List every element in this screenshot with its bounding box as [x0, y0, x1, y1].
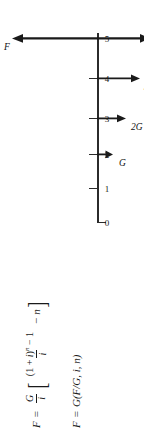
formula1-main-denominator: i: [36, 350, 48, 359]
cash-flow-arrow-3G: [97, 65, 143, 91]
formula-rotation-wrapper: F = G i [ (1 + i)n − 1 i − n ]: [12, 260, 132, 428]
formula2-equals: =: [70, 411, 82, 417]
formula1-num-close: ): [24, 351, 35, 354]
cash-flow-figure: 0 1 2 3 4 5 G 2G: [0, 0, 144, 434]
diagram-rotation-wrapper: 0 1 2 3 4 5 G 2G: [2, 0, 142, 231]
cash-flow-arrow-2G: [97, 105, 129, 131]
formula1-num-open: (1 +: [24, 357, 35, 376]
diagram-canvas: 0 1 2 3 4 5 G 2G: [2, 0, 142, 231]
formula1-main-fraction: (1 + i)n − 1 i: [24, 329, 48, 379]
formula1-num-exponent: n: [23, 348, 31, 352]
formula1-lhs: F: [30, 421, 42, 428]
formula2-lhs: F: [70, 421, 82, 428]
axis-tick-1: [89, 188, 98, 189]
cash-flow-label-F: F: [4, 42, 10, 52]
cash-flow-label-2G: 2G: [131, 122, 143, 132]
formula1-coef-numerator: G: [25, 392, 36, 405]
formula1-num-i: i: [24, 354, 35, 357]
formula1-coef-denominator: i: [36, 394, 48, 403]
formula-block: F = G i [ (1 + i)n − 1 i − n ]: [0, 255, 144, 434]
formula-factor-notation: F = G(F/G, i, n): [70, 355, 82, 429]
formula1-num-tail: − 1: [24, 332, 35, 348]
formula1-minus: −: [30, 318, 42, 324]
formula-future-worth-gradient: F = G i [ (1 + i)n − 1 i − n ]: [24, 301, 48, 429]
cash-flow-arrow-4G: [97, 25, 144, 51]
formula1-equals: =: [30, 411, 42, 417]
formula-stack: F = G i [ (1 + i)n − 1 i − n ]: [12, 260, 132, 428]
cash-flow-label-G: G: [119, 158, 126, 168]
formula1-coefficient-fraction: G i: [25, 392, 48, 405]
formula2-rhs: G(F/G, i, n): [70, 355, 82, 408]
cash-flow-diagram: 0 1 2 3 4 5 G 2G: [0, 0, 144, 250]
axis-tick-label-1: 1: [100, 184, 114, 194]
cash-flow-arrow-F: [10, 25, 100, 51]
formula1-n: n: [30, 309, 42, 315]
cash-flow-arrow-G: [97, 141, 117, 167]
axis-tick-label-0: 0: [100, 218, 114, 228]
formula1-main-numerator: (1 + i)n − 1: [24, 329, 36, 379]
formula1-bracket-open: [: [26, 382, 47, 388]
formula1-bracket-close: ]: [26, 302, 47, 308]
